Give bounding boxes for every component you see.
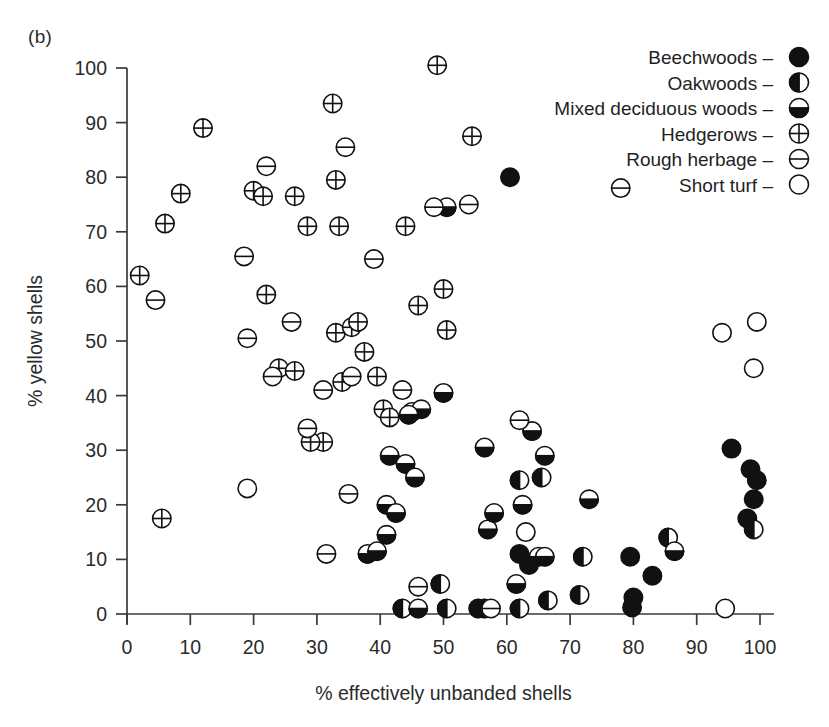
marker-fill-left (431, 575, 440, 593)
marker-fill-bottom (400, 415, 418, 424)
data-point (428, 56, 446, 74)
series-oakwoods (393, 468, 763, 617)
data-point (434, 384, 452, 402)
data-point (381, 408, 399, 426)
data-point (485, 504, 503, 522)
data-point (409, 578, 427, 596)
data-point (254, 187, 272, 205)
x-tick-label: 50 (433, 636, 455, 658)
data-point (539, 591, 557, 609)
marker-fill-bottom (387, 513, 405, 522)
data-point (438, 321, 456, 339)
y-tick-label: 10 (85, 548, 107, 570)
marker-fill-bottom (507, 584, 525, 593)
x-tick-label: 90 (686, 636, 708, 658)
data-point (349, 313, 367, 331)
marker-fill-bottom (580, 499, 598, 508)
y-axis-title: % yellow shells (24, 275, 46, 407)
data-point (463, 127, 481, 145)
data-point (257, 285, 275, 303)
data-point (475, 438, 493, 456)
legend-group: Beechwoods –Oakwoods –Mixed deciduous wo… (554, 47, 808, 196)
data-point (377, 526, 395, 544)
data-point (748, 313, 766, 331)
data-point (438, 599, 456, 617)
marker-fill-bottom (434, 393, 452, 402)
marker-fill-left (510, 599, 519, 617)
legend-label: Hedgerows – (661, 124, 773, 145)
marker-fill-left (659, 528, 668, 546)
legend-item-hedgerows[interactable]: Hedgerows – (661, 124, 808, 145)
data-point (409, 296, 427, 314)
x-tick-label: 10 (179, 636, 201, 658)
x-tick-label: 0 (122, 636, 133, 658)
legend-marker-open-circle (790, 175, 809, 194)
y-tick-label: 60 (85, 275, 107, 297)
series-short-turf (238, 313, 766, 618)
legend-marker-filled-circle (790, 48, 809, 67)
data-point (298, 419, 316, 437)
data-point (343, 367, 361, 385)
data-point (330, 217, 348, 235)
data-point (748, 471, 766, 489)
y-tick-label: 100 (74, 57, 107, 79)
y-tick-label: 0 (96, 603, 107, 625)
x-axis-title: % effectively unbanded shells (315, 682, 572, 704)
legend-label: Beechwoods – (648, 47, 773, 68)
data-point (425, 198, 443, 216)
data-point (665, 542, 683, 560)
legend-item-mixed-deciduous-woods[interactable]: Mixed deciduous woods – (554, 98, 808, 119)
legend-item-beechwoods[interactable]: Beechwoods – (648, 47, 808, 68)
data-point (517, 523, 535, 541)
data-point (434, 280, 452, 298)
figure-panel: (b) 010203040506070809010001020304050607… (0, 0, 829, 727)
scatter-plot: 0102030405060708090100010203040506070809… (0, 0, 829, 727)
data-point (643, 567, 661, 585)
marker-fill-left (532, 468, 541, 486)
marker-fill-bottom (409, 609, 427, 618)
x-tick-label: 20 (243, 636, 265, 658)
legend-marker-bottom-half-circle (790, 99, 809, 118)
data-point (339, 485, 357, 503)
y-tick-label: 20 (85, 494, 107, 516)
data-point (400, 406, 418, 424)
y-tick-label: 30 (85, 439, 107, 461)
data-point (298, 217, 316, 235)
data-point (722, 439, 740, 457)
marker-fill-left (438, 599, 447, 617)
data-point (745, 520, 763, 538)
legend-item-rough-herbage[interactable]: Rough herbage – (626, 149, 808, 170)
data-point (368, 367, 386, 385)
data-point (513, 496, 531, 514)
legend-marker-left-half-circle (790, 73, 809, 92)
marker-fill-left (393, 599, 402, 617)
marker-fill-bottom (790, 108, 809, 118)
legend-label: Mixed deciduous woods – (554, 98, 773, 119)
legend-marker-cross-circle (790, 124, 809, 143)
data-point (324, 94, 342, 112)
marker-fill-left (539, 591, 548, 609)
data-point (393, 381, 411, 399)
data-point (460, 195, 478, 213)
data-point (317, 545, 335, 563)
data-point (153, 509, 171, 527)
x-tick-label: 70 (559, 636, 581, 658)
data-point (286, 187, 304, 205)
legend-item-oakwoods[interactable]: Oakwoods – (667, 73, 808, 94)
y-tick-label: 70 (85, 221, 107, 243)
data-point (327, 171, 345, 189)
marker-fill-bottom (523, 431, 541, 440)
marker-fill-bottom (665, 551, 683, 560)
data-point (570, 586, 588, 604)
data-point (510, 471, 528, 489)
y-tick-label: 80 (85, 166, 107, 188)
data-point (238, 329, 256, 347)
data-point (580, 490, 598, 508)
data-point (282, 313, 300, 331)
data-point (510, 411, 528, 429)
legend-item-short-turf[interactable]: Short turf – (679, 175, 809, 196)
y-tick-label: 50 (85, 330, 107, 352)
marker-fill-bottom (406, 478, 424, 487)
marker-fill-bottom (536, 456, 554, 465)
data-point (235, 247, 253, 265)
